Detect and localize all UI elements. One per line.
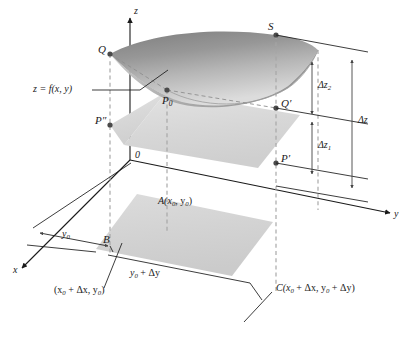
dz1-label: Δz1: [318, 140, 331, 151]
y0-subscript: 0: [66, 233, 69, 240]
point-label-P0: P0: [162, 95, 172, 107]
point-P0-marker: [164, 87, 169, 92]
C-prefix: C(x: [276, 282, 290, 293]
dz-label: Δz: [358, 115, 368, 125]
C-suffix: ): [351, 282, 354, 293]
point-label-C: C(x0 + Δx, y0 + Δy): [276, 283, 355, 294]
y0dy-measure-tick: [250, 283, 262, 300]
increment-of-function-diagram: z y x 0 z = f(x, y) Q S P0 P″ Q′ P′ B A(…: [0, 0, 413, 348]
A-mid: , y: [175, 195, 185, 206]
A-suffix: ): [189, 195, 192, 206]
x-axis-label: x: [13, 265, 17, 275]
C-mid1: + Δx, y: [294, 282, 326, 293]
surface-zfxy: [110, 32, 318, 108]
point-label-Q: Q: [98, 44, 106, 55]
rail-from-Pprime: [276, 163, 368, 179]
point-label-P0-letter: P: [162, 94, 169, 106]
origin-label: 0: [135, 150, 140, 160]
point-label-S: S: [268, 21, 274, 32]
dz2-subscript: 2: [328, 84, 331, 91]
Bcoord-suffix: ): [101, 284, 104, 295]
leader-C: [244, 292, 272, 322]
dz2-label: Δz2: [318, 80, 331, 91]
surface-equation-label: z = f(x, y): [33, 84, 72, 94]
Bcoord-mid: + Δx, y: [66, 284, 98, 295]
dz2-prefix: Δz: [318, 79, 328, 90]
dz1-prefix: Δz: [318, 139, 328, 150]
A-prefix: A(x: [158, 195, 172, 206]
rail-lower-left: [27, 245, 96, 252]
point-Q-marker: [107, 51, 112, 56]
point-Pdd-marker: [107, 122, 112, 127]
y0-label: y0: [62, 229, 70, 240]
y0dy-label: y0 + Δy: [130, 268, 160, 279]
point-label-B: B: [103, 234, 110, 245]
point-label-A: A(x0, y0): [158, 196, 192, 207]
coord-label-B: (x0 + Δx, y0): [54, 285, 105, 296]
z-axis-label: z: [134, 6, 138, 16]
rail-origin-to-left: [33, 163, 131, 228]
point-label-Pdoubleprime: P″: [95, 115, 106, 126]
C-mid2: + Δy: [329, 282, 351, 293]
dz1-subscript: 1: [328, 144, 331, 151]
y-axis-label: y: [394, 209, 398, 219]
y0dy-suffix: + Δy: [138, 267, 160, 278]
point-label-P0-subscript: 0: [169, 99, 173, 108]
point-label-Pprime: P′: [281, 153, 290, 164]
point-label-Qprime: Q′: [281, 98, 291, 109]
